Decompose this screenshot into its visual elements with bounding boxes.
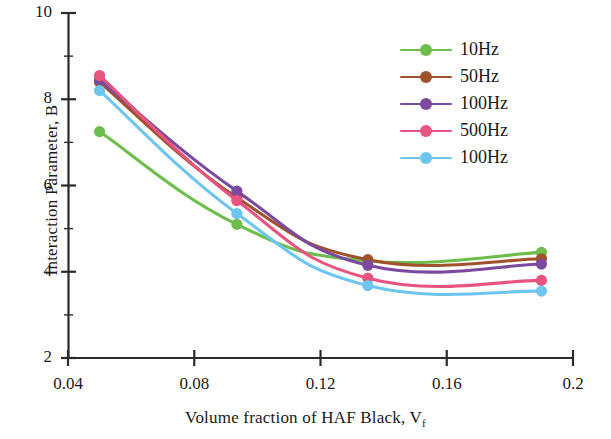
legend-swatch-icon [400,42,452,58]
chart-figure: 108642 0.040.080.120.160.2 Interaction P… [0,0,611,439]
legend-marker-icon [420,98,432,110]
y-tick-label: 10 [12,2,52,22]
legend-item-4[interactable]: 100Hz [400,144,580,171]
x-tick-label: 0.16 [412,374,482,394]
legend-item-3[interactable]: 500Hz [400,117,580,144]
legend-marker-icon [420,71,432,83]
legend-swatch-icon [400,123,452,139]
data-point-marker [94,70,105,81]
legend-label: 10Hz [452,39,499,60]
legend-marker-icon [420,152,432,164]
data-point-marker [231,195,242,206]
legend-swatch-icon [400,96,452,112]
x-tick-label: 0.2 [538,374,608,394]
data-point-marker [231,219,242,230]
legend-swatch-icon [400,150,452,166]
x-axis-title-main: Volume fraction of HAF Black, V [185,408,422,427]
data-point-marker [362,260,373,271]
legend-marker-icon [420,44,432,56]
chart-legend: 10Hz50Hz100Hz500Hz100Hz [400,36,580,171]
legend-label: 100Hz [452,147,508,168]
data-point-marker [536,275,547,286]
legend-label: 100Hz [452,93,508,114]
legend-swatch-icon [400,69,452,85]
data-point-marker [536,258,547,269]
x-tick-label: 0.08 [159,374,229,394]
x-axis-title-subscript: f [422,417,426,429]
data-point-marker [362,280,373,291]
legend-label: 50Hz [452,66,499,87]
legend-item-2[interactable]: 100Hz [400,90,580,117]
data-point-marker [94,126,105,137]
y-axis-title: Interaction Parameter, B [42,20,62,360]
x-axis-title: Volume fraction of HAF Black, Vf [0,408,611,429]
x-tick-label: 0.12 [286,374,356,394]
data-point-marker [94,85,105,96]
legend-item-0[interactable]: 10Hz [400,36,580,63]
data-point-marker [231,208,242,219]
x-tick-label: 0.04 [33,374,103,394]
data-point-marker [536,286,547,297]
legend-marker-icon [420,125,432,137]
legend-label: 500Hz [452,120,508,141]
legend-item-1[interactable]: 50Hz [400,63,580,90]
